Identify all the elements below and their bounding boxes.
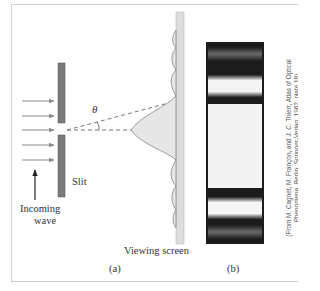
panel-a-label: (a)	[109, 263, 121, 274]
diffraction-photo	[206, 42, 264, 244]
viewing-screen-label: Viewing screen	[124, 245, 189, 256]
incoming-wave-arrows	[22, 101, 54, 160]
band-outer-bottom	[208, 225, 262, 239]
angle-arc	[97, 122, 99, 130]
incoming-wave-label-line2: wave	[34, 215, 56, 226]
viewing-screen	[176, 12, 184, 244]
theta-label: θ	[92, 103, 97, 115]
band-first-top	[208, 75, 262, 97]
slit-label: Slit	[72, 176, 87, 187]
slit-bar-top	[58, 63, 65, 123]
photo-credit: (From M. Cagnet, M. Françon, and J. C. T…	[285, 59, 298, 236]
slit-bar-bottom	[58, 135, 65, 197]
slit-barrier	[58, 63, 65, 197]
band-central	[208, 104, 262, 188]
band-first-bottom	[208, 197, 262, 219]
panel-b-label: (b)	[227, 263, 239, 274]
incoming-wave-label-line1: Incoming	[20, 203, 60, 214]
photo-credit-line1: (From M. Cagnet, M. Françon, and J. C. T…	[285, 59, 293, 236]
band-outer-top	[208, 47, 262, 61]
photo-credit-line2: Phenomena, Berlin, Springer-Verlag, 1962…	[293, 59, 298, 236]
intensity-curve	[131, 30, 176, 228]
